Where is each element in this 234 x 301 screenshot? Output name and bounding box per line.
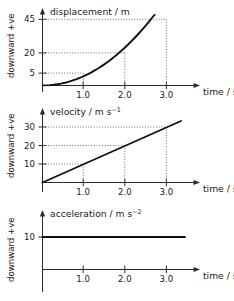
y-tick-label-velocity-30: 30: [24, 122, 35, 132]
chart-title-acceleration: acceleration / m s−2: [50, 208, 142, 219]
x-axis-arrow-acceleration: [194, 267, 201, 272]
y-axis-arrow-acceleration: [40, 210, 45, 217]
y-axis-arrow-velocity: [40, 108, 45, 115]
chart-title-velocity-sup: −1: [112, 106, 121, 114]
y-tick-label-velocity-20: 20: [24, 141, 35, 151]
y-tick-label-acceleration-10: 10: [24, 232, 35, 242]
y-side-label-velocity: downward +ve: [6, 113, 16, 178]
kinematics-figure: downward +ve 5 20 45 1.0 2.0 3.0: [0, 0, 234, 301]
x-tick-label-velocity-1: 1.0: [76, 187, 90, 197]
x-axis-arrow-displacement: [194, 83, 201, 88]
y-side-label-displacement: downward +ve: [6, 13, 16, 78]
chart-panel-velocity: downward +ve 10 20 30 1.0 2.0 3.0: [0, 100, 234, 200]
chart-title-velocity: velocity / m s−1: [50, 106, 121, 117]
x-tick-label-velocity-3: 3.0: [160, 187, 174, 197]
y-tick-label-displacement-5: 5: [30, 68, 35, 78]
x-tick-label-acceleration-3: 3.0: [160, 274, 174, 284]
chart-title-displacement: displacement / m: [50, 6, 130, 17]
chart-title-acceleration-main: acceleration / m s: [50, 208, 132, 219]
chart-panel-acceleration: downward +ve 10 1.0 2.0 3.0 acceleration…: [0, 200, 234, 300]
y-tick-label-displacement-45: 45: [24, 14, 35, 24]
y-tick-label-velocity-10: 10: [24, 159, 35, 169]
chart-panel-displacement: downward +ve 5 20 45 1.0 2.0 3.0: [0, 0, 234, 100]
x-tick-label-displacement-1: 1.0: [76, 90, 90, 100]
y-axis-arrow-displacement: [40, 8, 45, 15]
x-axis-title-displacement: time / s: [203, 86, 234, 97]
x-tick-label-displacement-3: 3.0: [160, 90, 174, 100]
x-axis-title-acceleration: time / s: [203, 270, 234, 281]
x-tick-label-acceleration-2: 2.0: [118, 274, 132, 284]
data-curve-velocity: [43, 121, 182, 183]
y-side-label-acceleration: downward +ve: [6, 217, 16, 282]
x-tick-label-acceleration-1: 1.0: [76, 274, 90, 284]
chart-title-acceleration-sup: −2: [132, 208, 141, 216]
chart-title-velocity-main: velocity / m s: [50, 106, 112, 117]
x-tick-label-velocity-2: 2.0: [118, 187, 132, 197]
x-axis-arrow-velocity: [194, 180, 201, 185]
x-tick-label-displacement-2: 2.0: [118, 90, 132, 100]
y-tick-label-displacement-20: 20: [24, 48, 35, 58]
x-axis-title-velocity: time / s: [203, 183, 234, 194]
